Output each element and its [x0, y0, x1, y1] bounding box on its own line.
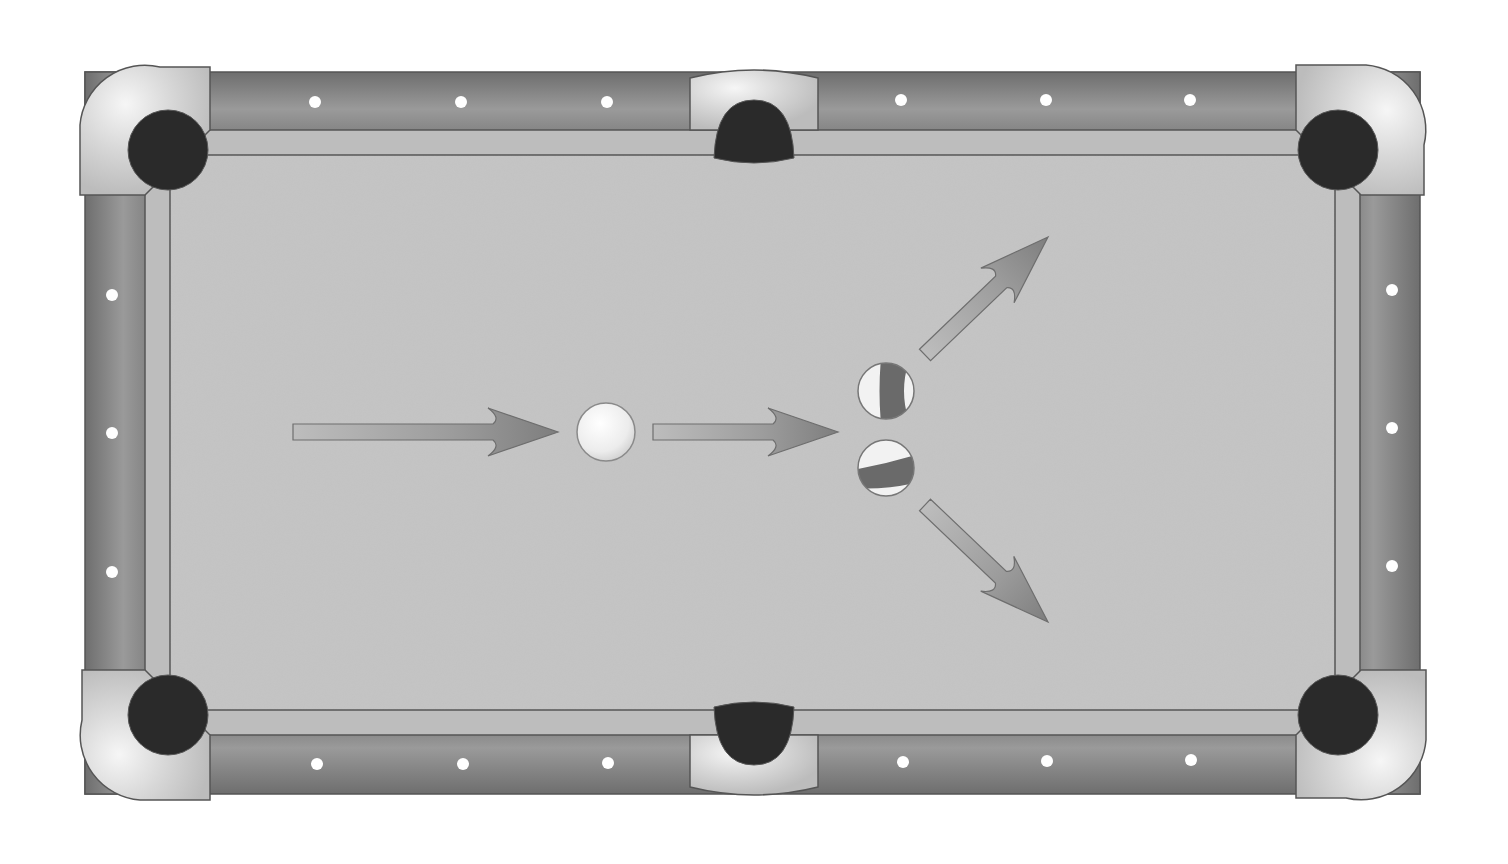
rail-diamond-marker: [897, 756, 909, 768]
rail-diamond-marker: [106, 427, 118, 439]
rail-diamond-marker: [311, 758, 323, 770]
rail-diamond-marker: [602, 757, 614, 769]
cue-ball-body: [577, 403, 635, 461]
corner-pocket-bottom-left: [128, 675, 208, 755]
rail-diamond-marker: [106, 566, 118, 578]
pool-table-diagram: [0, 0, 1508, 864]
rail-diamond-marker: [106, 289, 118, 301]
cue-ball: [577, 403, 635, 461]
rail-diamond-marker: [895, 94, 907, 106]
rail-diamond-marker: [1386, 422, 1398, 434]
corner-pocket-top-left: [128, 110, 208, 190]
rail-diamond-marker: [457, 758, 469, 770]
rail-diamond-marker: [601, 96, 613, 108]
pool-table-illustration: [0, 0, 1508, 864]
rail-diamond-marker: [309, 96, 321, 108]
corner-pocket-top-right: [1298, 110, 1378, 190]
rail-diamond-marker: [1185, 754, 1197, 766]
rail-diamond-marker: [1040, 94, 1052, 106]
rail-diamond-marker: [1184, 94, 1196, 106]
rail-diamond-marker: [455, 96, 467, 108]
rail-diamond-marker: [1386, 560, 1398, 572]
corner-pocket-bottom-right: [1298, 675, 1378, 755]
rail-diamond-marker: [1041, 755, 1053, 767]
rail-diamond-marker: [1386, 284, 1398, 296]
